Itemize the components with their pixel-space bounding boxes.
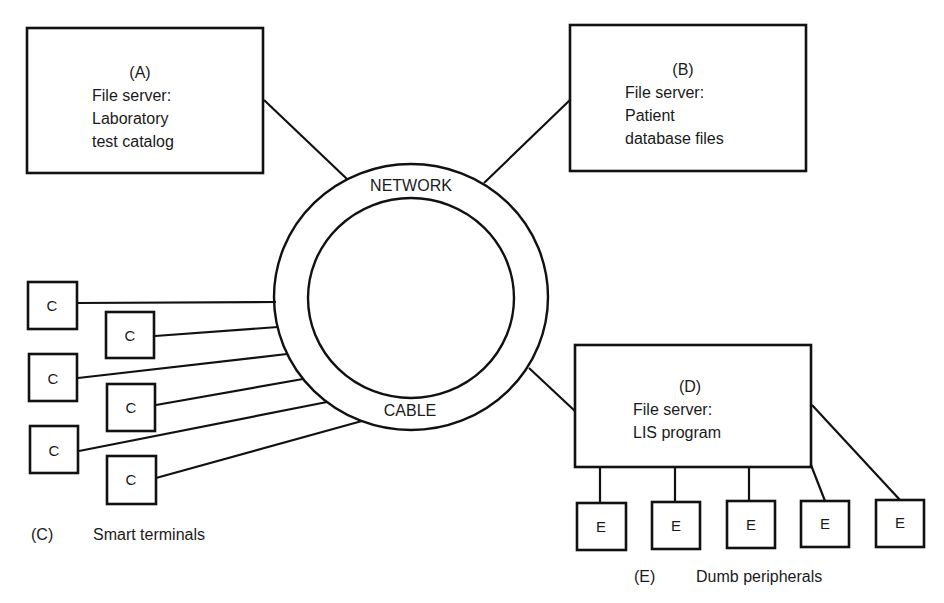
ring-inner — [308, 198, 514, 398]
file-server-d[interactable]: (D) File server: LIS program — [575, 345, 811, 467]
server-d-id: (D) — [679, 378, 701, 395]
terminal-c6[interactable]: C — [107, 456, 156, 504]
terminal-c3-label: C — [48, 370, 59, 387]
server-a-line-2: Laboratory — [92, 110, 169, 127]
terminals-caption-id: (C) — [31, 526, 53, 543]
connector-b-ring — [484, 100, 570, 183]
connector-c1-ring — [77, 302, 276, 303]
peripheral-e2-label: E — [671, 517, 681, 534]
terminal-c4[interactable]: C — [107, 384, 155, 431]
file-server-b[interactable]: (B) File server: Patient database files — [570, 25, 806, 171]
peripherals-caption-text: Dumb peripherals — [696, 568, 822, 585]
server-d-line-2: LIS program — [633, 424, 721, 441]
terminal-c6-label: C — [126, 471, 137, 488]
terminal-c3[interactable]: C — [29, 354, 77, 401]
smart-terminals: C C C C C C (C) Smart terminals — [28, 282, 205, 543]
terminal-c5[interactable]: C — [30, 426, 78, 473]
cable-label: CABLE — [384, 402, 436, 419]
peripheral-e4[interactable]: E — [801, 501, 849, 547]
peripheral-e3[interactable]: E — [727, 501, 775, 548]
peripheral-e1[interactable]: E — [577, 503, 626, 550]
server-a-id: (A) — [129, 64, 150, 81]
connector-d-e5 — [812, 405, 900, 500]
file-server-a[interactable]: (A) File server: Laboratory test catalog — [27, 28, 263, 173]
terminal-c2-label: C — [125, 327, 136, 344]
terminal-c1[interactable]: C — [28, 282, 77, 329]
server-b-line-3: database files — [625, 130, 724, 147]
ring-outer — [274, 164, 548, 430]
server-a-line-3: test catalog — [92, 133, 174, 150]
terminal-c4-label: C — [126, 399, 137, 416]
server-a-line-1: File server: — [92, 87, 171, 104]
peripherals-caption-id: (E) — [634, 568, 655, 585]
peripheral-e4-label: E — [820, 515, 830, 532]
connector-a-ring — [264, 100, 347, 179]
terminal-c2[interactable]: C — [106, 312, 154, 358]
dumb-peripherals: E E E E E (E) Dumb peripherals — [577, 500, 924, 585]
connector-d-ring — [529, 368, 576, 412]
terminal-c1-label: C — [47, 297, 58, 314]
network-diagram: NETWORK CABLE (A) File server: Laborator… — [0, 0, 944, 603]
network-label: NETWORK — [370, 177, 452, 194]
connector-d-e4 — [811, 465, 825, 501]
network-cable-ring: NETWORK CABLE — [274, 164, 548, 430]
server-d-line-1: File server: — [633, 401, 712, 418]
terminals-caption-text: Smart terminals — [93, 526, 205, 543]
server-b-line-1: File server: — [625, 84, 704, 101]
server-b-line-2: Patient — [625, 107, 675, 124]
peripheral-e1-label: E — [596, 518, 606, 535]
peripheral-e5[interactable]: E — [876, 500, 924, 547]
peripheral-e2[interactable]: E — [652, 502, 700, 549]
peripheral-e5-label: E — [895, 514, 905, 531]
connector-c4-ring — [156, 379, 303, 405]
server-b-id: (B) — [672, 61, 693, 78]
terminal-c5-label: C — [49, 442, 60, 459]
peripheral-e3-label: E — [746, 516, 756, 533]
connector-c2-ring — [155, 327, 278, 336]
